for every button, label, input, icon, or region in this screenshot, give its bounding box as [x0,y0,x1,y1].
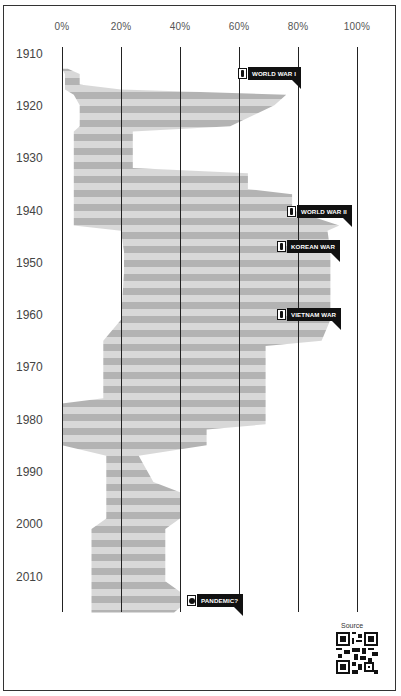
flag-tail [292,80,301,89]
soldier-icon [277,309,286,320]
marker-label: VIETNAM WAR [287,308,341,321]
marker-pandemic: PANDEMIC? [187,594,243,607]
flag-tail [331,253,340,262]
marker-world-war-2: WORLD WAR II [287,205,352,218]
chart-plot [0,0,401,696]
marker-label: WORLD WAR II [297,205,352,218]
marker-label: PANDEMIC? [197,594,243,607]
soldier-icon [287,206,296,217]
marker-label: KOREAN WAR [287,240,340,253]
qr-code-icon[interactable] [336,632,378,674]
soldier-icon [277,241,286,252]
marker-korean-war: KOREAN WAR [277,240,340,253]
data-band [62,69,339,613]
flag-tail [343,218,352,227]
marker-world-war-1: WORLD WAR I [238,67,301,80]
virus-icon [187,595,196,606]
flag-tail [234,607,243,616]
marker-label: WORLD WAR I [248,67,301,80]
soldier-icon [238,68,247,79]
marker-vietnam-war: VIETNAM WAR [277,308,341,321]
source-label: Source [341,622,363,629]
flag-tail [332,321,341,330]
